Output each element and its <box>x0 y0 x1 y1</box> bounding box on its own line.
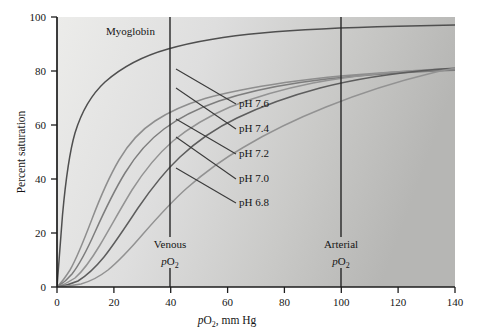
y-tick-label-40: 40 <box>35 173 47 185</box>
x-tick-label-40: 40 <box>165 296 177 308</box>
arterial-o: O <box>338 255 346 267</box>
y-ticks <box>51 17 57 287</box>
venous-sub: 2 <box>175 261 179 270</box>
venous-o: O <box>167 255 175 267</box>
x-tick-label-60: 60 <box>222 296 234 308</box>
y-tick-label-100: 100 <box>30 11 47 23</box>
oxygen-binding-curve-figure: 0 20 40 60 80 100 0 20 40 60 80 100 120 … <box>0 0 483 332</box>
x-axis-title-tail: , mm Hg <box>216 314 257 327</box>
curve-label-ph-7-2: pH 7.2 <box>239 147 269 159</box>
x-axis-title-o: O <box>203 314 211 326</box>
chart-svg: 0 20 40 60 80 100 0 20 40 60 80 100 120 … <box>0 0 483 332</box>
svg-text:pO2, mm Hg: pO2, mm Hg <box>197 314 257 329</box>
x-tick-label-20: 20 <box>108 296 120 308</box>
curve-label-ph-7-6: pH 7.6 <box>239 97 269 109</box>
arterial-label: Arterial <box>324 238 358 250</box>
curve-label-ph-7-4: pH 7.4 <box>239 122 269 134</box>
x-tick-label-140: 140 <box>447 296 464 308</box>
y-tick-label-60: 60 <box>35 119 47 131</box>
curve-label-ph-7-0: pH 7.0 <box>239 172 269 184</box>
y-tick-label-20: 20 <box>35 227 47 239</box>
y-tick-label-0: 0 <box>41 281 47 293</box>
x-axis-title: pO2, mm Hg <box>197 314 257 329</box>
y-tick-label-80: 80 <box>35 65 47 77</box>
curve-label-myoglobin: Myoglobin <box>106 25 155 37</box>
x-tick-label-0: 0 <box>54 296 60 308</box>
venous-label: Venous <box>154 238 186 250</box>
curve-label-ph-6-8: pH 6.8 <box>239 196 269 208</box>
y-axis-title: Percent saturation <box>15 110 27 193</box>
x-ticks <box>57 287 455 293</box>
x-tick-label-80: 80 <box>279 296 291 308</box>
x-tick-label-100: 100 <box>333 296 350 308</box>
arterial-sub: 2 <box>346 261 350 270</box>
x-tick-label-120: 120 <box>390 296 407 308</box>
